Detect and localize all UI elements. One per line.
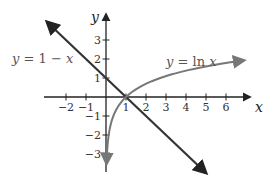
x-tick-label: 3 [163, 101, 170, 114]
x-tick-label: 6 [223, 101, 230, 114]
x-tick-label: 2 [143, 101, 150, 114]
x-axis-label: x [255, 99, 263, 115]
x-tick-label: 5 [203, 101, 210, 114]
x-tick-label: 1 [123, 101, 130, 114]
y-tick-label: −2 [85, 129, 101, 142]
y-axis-label: y [90, 9, 100, 25]
y-tick-label: 2 [94, 53, 101, 66]
label-ln-eq: y = ln x [165, 54, 217, 69]
axes: −2−1123456 −3−2−1123 x y [44, 9, 263, 172]
y-tick-label: 3 [94, 34, 101, 47]
annotations: y = 1 − x y = ln x [11, 51, 217, 69]
x-tick-label: 4 [183, 101, 190, 114]
label-line-eq: y = 1 − x [11, 51, 74, 66]
function-graph: −2−1123456 −3−2−1123 x y y = 1 − x y = l… [0, 0, 270, 184]
y-tick-label: −3 [85, 148, 101, 161]
y-tick-label: −1 [85, 110, 101, 123]
x-tick-label: −2 [58, 101, 74, 114]
y-tick-label: 1 [94, 72, 101, 85]
